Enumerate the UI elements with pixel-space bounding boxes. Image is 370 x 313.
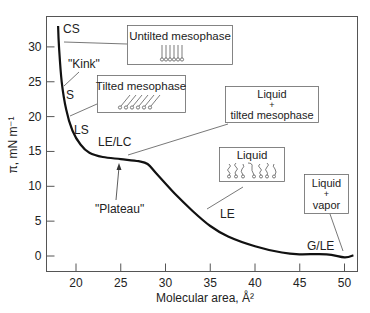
plateau-arrow xyxy=(116,167,119,200)
liquid-pointer xyxy=(207,187,243,209)
y-tick-label: 15 xyxy=(28,144,42,158)
y-tick-label: 10 xyxy=(28,179,42,193)
x-tick-label: 30 xyxy=(159,276,173,290)
kink-pointer xyxy=(64,72,79,86)
box-liquid-vapor: Liquid + vapor xyxy=(305,175,349,214)
svg-text:tilted mesophase: tilted mesophase xyxy=(230,109,313,121)
svg-text:vapor: vapor xyxy=(313,199,341,211)
label-le-lc: LE/LC xyxy=(98,135,132,149)
svg-text:Untilted mesophase: Untilted mesophase xyxy=(129,30,231,42)
label-s: S xyxy=(66,88,74,102)
x-tick-label: 35 xyxy=(204,276,218,290)
label-le: LE xyxy=(220,207,235,221)
x-tick-label: 20 xyxy=(69,276,83,290)
x-tick-label: 40 xyxy=(248,276,262,290)
arrow-head-icon xyxy=(117,163,122,170)
x-axis: 20253035404550 xyxy=(69,264,351,290)
y-axis: 051015202530 xyxy=(28,40,54,263)
label-g-le: G/LE xyxy=(307,239,334,253)
y-tick-label: 30 xyxy=(28,40,42,54)
isotherm-chart: 051015202530 20253035404550 Molecular ar… xyxy=(0,0,370,313)
y-tick-label: 0 xyxy=(35,249,42,263)
x-tick-label: 45 xyxy=(293,276,307,290)
y-tick-label: 25 xyxy=(28,75,42,89)
box-untilted-mesophase: Untilted mesophase xyxy=(128,26,233,65)
label-cs: CS xyxy=(63,22,80,36)
y-tick-label: 20 xyxy=(28,110,42,124)
box-liquid: Liquid xyxy=(220,148,285,182)
svg-text:Liquid: Liquid xyxy=(237,149,268,161)
label-kink: "Kink" xyxy=(68,57,100,71)
svg-text:Liquid: Liquid xyxy=(312,177,341,189)
box-tilted-mesophase: Tilted mesophase xyxy=(96,76,186,113)
tilted-pointer xyxy=(70,104,97,116)
y-tick-label: 5 xyxy=(35,214,42,228)
label-plateau: "Plateau" xyxy=(95,202,144,216)
svg-text:Tilted mesophase: Tilted mesophase xyxy=(96,80,186,92)
untilted-pointer xyxy=(64,42,127,44)
x-axis-label: Molecular area, Å² xyxy=(156,290,254,305)
svg-text:+: + xyxy=(324,189,329,199)
y-axis-label: π, mN m⁻¹ xyxy=(6,117,20,174)
x-tick-label: 25 xyxy=(114,276,128,290)
liquid-tilted-pointer xyxy=(128,124,228,155)
label-ls: LS xyxy=(74,123,89,137)
svg-text:Liquid: Liquid xyxy=(257,88,286,100)
box-liquid-tilted-mesophase: Liquid + tilted mesophase xyxy=(226,87,319,123)
x-tick-label: 50 xyxy=(338,276,352,290)
